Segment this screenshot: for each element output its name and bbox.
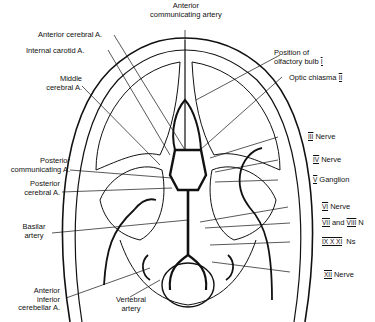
- roman-numeral: II: [339, 74, 343, 82]
- label-line: cerebral A.: [38, 84, 82, 93]
- roman-numeral: I: [321, 58, 323, 66]
- label-nerve-3: IIINerve: [308, 133, 335, 142]
- roman-numeral: III: [308, 133, 313, 141]
- roman-numeral: VIII: [347, 219, 357, 227]
- label-ganglion-5: VGanglion: [313, 176, 349, 185]
- label-posterior-cerebral-artery: Posterior cerebral A.: [2, 180, 60, 197]
- roman-numeral: V: [313, 176, 317, 184]
- label-line: artery: [108, 305, 154, 314]
- label-nerve-4: IVNerve: [313, 156, 341, 165]
- label-text: Nerve: [330, 202, 350, 211]
- label-line: olfactory bulb I: [274, 58, 325, 67]
- label-posterior-communicating-artery: Posterior communicating A.: [2, 157, 70, 174]
- label-nerves-7-8: VIIand VIIIN: [322, 219, 364, 228]
- label-line: communicating artery: [150, 11, 222, 20]
- roman-numeral: VII: [322, 219, 330, 227]
- label-nerves-9-10-11: IX X XI Ns: [322, 238, 356, 247]
- label-text: Ns: [346, 237, 355, 246]
- label-basilar-artery: Basilar artery: [14, 223, 54, 240]
- label-anterior-inferior-cerebellar-artery: Anterior inferior cerebellar A.: [4, 287, 60, 313]
- label-middle-cerebral-artery: Middle cerebral A.: [38, 75, 82, 92]
- label-line: cerebellar A.: [4, 304, 60, 313]
- label-nerve-6: VINerve: [322, 203, 350, 212]
- label-text: Nerve: [334, 270, 354, 279]
- label-text: N: [358, 218, 363, 227]
- label-optic-chiasma: Optic chiasma II: [289, 74, 344, 83]
- roman-numeral: VI: [322, 203, 328, 211]
- label-olfactory-bulb: Position of olfactory bulb I: [274, 49, 325, 66]
- label-vertebral-artery: Vertebral artery: [108, 296, 154, 313]
- label-line: artery: [14, 232, 54, 241]
- label-internal-carotid-artery: Internal carotid A.: [26, 47, 84, 56]
- circle-of-willis: [170, 150, 206, 190]
- label-anterior-communicating-artery: Anterior communicating artery: [150, 2, 222, 19]
- label-text: Ganglion: [319, 175, 349, 184]
- label-line: communicating A.: [2, 166, 70, 175]
- roman-numeral: XII: [324, 271, 332, 279]
- label-line: cerebral A.: [2, 189, 60, 198]
- roman-numeral: IX X XI: [322, 238, 342, 246]
- label-text: olfactory bulb: [274, 57, 319, 66]
- roman-numeral: IV: [313, 156, 319, 164]
- label-text: Nerve: [321, 155, 341, 164]
- label-text: Optic chiasma: [289, 73, 337, 82]
- vertebral-arteries: [170, 255, 207, 290]
- label-text: and: [332, 218, 345, 227]
- label-text: Nerve: [315, 132, 335, 141]
- label-nerve-12: XIINerve: [324, 271, 354, 280]
- label-anterior-cerebral-artery: Anterior cerebral A.: [38, 31, 102, 40]
